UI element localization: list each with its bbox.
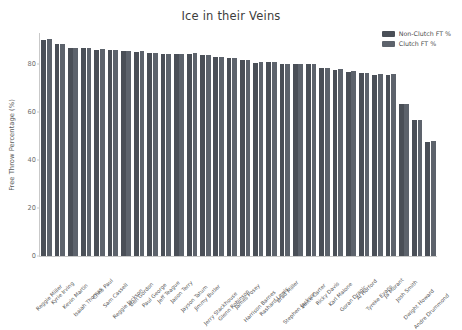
bar[interactable] — [126, 51, 131, 256]
bar[interactable] — [73, 48, 78, 256]
bar[interactable] — [187, 54, 192, 256]
bar-group[interactable] — [266, 33, 276, 256]
bar[interactable] — [193, 53, 198, 256]
y-axis-label: Free Throw Percentage (%) — [6, 33, 18, 256]
bar-group[interactable] — [346, 33, 356, 256]
bar-group[interactable] — [174, 33, 184, 256]
bar-group[interactable] — [359, 33, 369, 256]
bar-group[interactable] — [55, 33, 65, 256]
bar-group[interactable] — [108, 33, 118, 256]
bar[interactable] — [418, 120, 423, 256]
bar[interactable] — [200, 55, 205, 256]
bar[interactable] — [346, 72, 351, 256]
bar[interactable] — [94, 50, 99, 256]
bar[interactable] — [312, 64, 317, 256]
bar-group[interactable] — [240, 33, 250, 256]
bar-group[interactable] — [386, 33, 396, 256]
bar[interactable] — [298, 64, 303, 256]
bar[interactable] — [246, 60, 251, 256]
bar[interactable] — [219, 57, 224, 256]
bar[interactable] — [372, 75, 377, 256]
bar[interactable] — [425, 142, 430, 256]
bar-group[interactable] — [372, 33, 382, 256]
bar-group[interactable] — [213, 33, 223, 256]
bar[interactable] — [68, 48, 73, 256]
bar[interactable] — [81, 48, 86, 256]
bar-group[interactable] — [121, 33, 131, 256]
bar[interactable] — [404, 104, 409, 256]
bar[interactable] — [431, 141, 436, 256]
bar[interactable] — [306, 64, 311, 256]
bar-group[interactable] — [412, 33, 422, 256]
x-tick-label-text: Andre Drummond — [413, 292, 451, 330]
bar[interactable] — [206, 55, 211, 256]
bar-group[interactable] — [253, 33, 263, 256]
legend-item[interactable]: Clutch FT % — [382, 40, 451, 47]
bar[interactable] — [213, 57, 218, 256]
bar[interactable] — [108, 50, 113, 256]
bar[interactable] — [285, 64, 290, 256]
bar-group[interactable] — [81, 33, 91, 256]
bar[interactable] — [134, 52, 139, 256]
bar[interactable] — [365, 73, 370, 256]
bar[interactable] — [174, 54, 179, 256]
bar[interactable] — [227, 58, 232, 256]
legend-label: Non-Clutch FT % — [399, 30, 451, 37]
bar[interactable] — [280, 64, 285, 256]
bar[interactable] — [147, 53, 152, 256]
bar[interactable] — [386, 75, 391, 256]
bar[interactable] — [55, 44, 60, 256]
bar-group[interactable] — [161, 33, 171, 256]
y-tick-mark — [37, 64, 40, 65]
bar[interactable] — [41, 40, 46, 256]
bar[interactable] — [293, 64, 298, 256]
bar[interactable] — [232, 58, 237, 256]
bar[interactable] — [399, 104, 404, 256]
bar-group[interactable] — [94, 33, 104, 256]
bar-group[interactable] — [200, 33, 210, 256]
bar-group[interactable] — [134, 33, 144, 256]
bar[interactable] — [179, 54, 184, 256]
bar[interactable] — [87, 48, 92, 256]
bar[interactable] — [333, 70, 338, 256]
y-tick-mark — [37, 112, 40, 113]
bar-group[interactable] — [319, 33, 329, 256]
bar-group[interactable] — [280, 33, 290, 256]
bar-group[interactable] — [41, 33, 51, 256]
bar[interactable] — [266, 62, 271, 256]
bar[interactable] — [166, 54, 171, 256]
bar[interactable] — [319, 68, 324, 256]
bar[interactable] — [47, 39, 52, 256]
legend-label: Clutch FT % — [399, 40, 436, 47]
bar-group[interactable] — [399, 33, 409, 256]
bar-group[interactable] — [187, 33, 197, 256]
bar-group[interactable] — [147, 33, 157, 256]
y-tick-mark — [37, 208, 40, 209]
bar-group[interactable] — [425, 33, 435, 256]
bar[interactable] — [378, 74, 383, 256]
legend-item[interactable]: Non-Clutch FT % — [382, 30, 451, 37]
bar-group[interactable] — [333, 33, 343, 256]
bar[interactable] — [240, 60, 245, 256]
bar[interactable] — [338, 69, 343, 256]
bar[interactable] — [412, 120, 417, 256]
bar[interactable] — [272, 62, 277, 256]
bar[interactable] — [161, 54, 166, 256]
bar[interactable] — [113, 50, 118, 256]
bar[interactable] — [259, 62, 264, 256]
bar[interactable] — [391, 74, 396, 256]
bar-group[interactable] — [227, 33, 237, 256]
bar[interactable] — [100, 49, 105, 256]
bar[interactable] — [153, 53, 158, 256]
bar[interactable] — [121, 51, 126, 256]
bar-group[interactable] — [68, 33, 78, 256]
bar[interactable] — [140, 51, 145, 256]
bar[interactable] — [359, 73, 364, 256]
bar[interactable] — [351, 71, 356, 256]
bar[interactable] — [60, 44, 65, 256]
bar-group[interactable] — [293, 33, 303, 256]
bar[interactable] — [253, 63, 258, 257]
x-axis-spine — [39, 256, 437, 257]
bar-group[interactable] — [306, 33, 316, 256]
bar[interactable] — [325, 68, 330, 256]
